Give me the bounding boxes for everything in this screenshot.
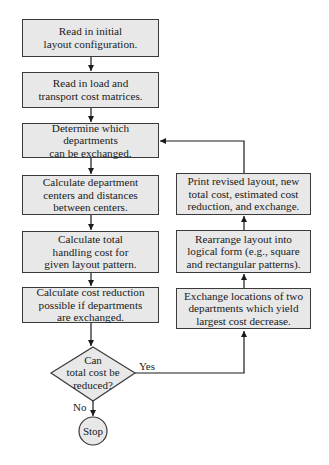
- step-read-matrices: Read in load and transport cost matrices…: [22, 72, 159, 108]
- decision-text: Can total cost be reduced?: [51, 354, 135, 391]
- step-calc-reduction: Calculate cost reduction possible if dep…: [22, 287, 159, 323]
- step-calc-total-cost: Calculate total handling cost for given …: [22, 231, 159, 273]
- no-label: No: [73, 401, 86, 413]
- step-print-revised: Print revised layout, new total cost, es…: [176, 173, 311, 215]
- arrow-loop-back: [160, 141, 244, 173]
- step-determine-exchange: Determine which departments can be excha…: [22, 123, 159, 158]
- step-calc-centers: Calculate department centers and distanc…: [22, 175, 159, 215]
- step-rearrange: Rearrange layout into logical form (e.g.…: [176, 230, 311, 273]
- step-exchange-locations: Exchange locations of two departments wh…: [176, 288, 311, 329]
- step-read-layout: Read in initial layout configuration.: [22, 19, 159, 57]
- yes-label: Yes: [139, 360, 155, 372]
- stop-text: Stop: [79, 425, 107, 437]
